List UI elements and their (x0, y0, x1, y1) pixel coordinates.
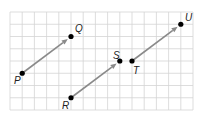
vector-rs (71, 67, 112, 98)
vector-grid-diagram: P Q R S T U (0, 0, 202, 117)
labels: P Q R S T U (14, 12, 193, 111)
label-s: S (113, 50, 120, 61)
label-t: T (133, 65, 140, 76)
label-q: Q (75, 23, 83, 34)
vectors (22, 27, 177, 98)
point-q (68, 34, 73, 39)
label-u: U (185, 12, 193, 23)
vector-tu (132, 30, 173, 61)
vector-pq (22, 43, 63, 74)
label-r: R (62, 100, 69, 111)
point-u (178, 22, 183, 27)
label-p: P (14, 75, 21, 86)
point-t (129, 58, 134, 63)
